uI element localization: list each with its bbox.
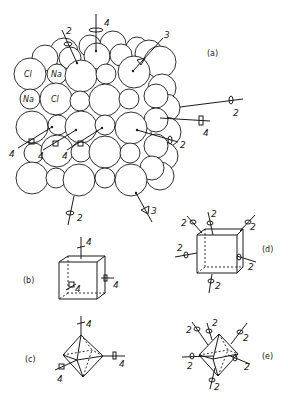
axis-2fold-bottom: 2 bbox=[66, 196, 83, 225]
svg-text:4: 4 bbox=[75, 284, 81, 294]
atom-label-cl: Cl bbox=[51, 95, 60, 104]
svg-text:4: 4 bbox=[9, 149, 15, 159]
atom-label-cl: Cl bbox=[24, 70, 33, 79]
svg-text:2: 2 bbox=[181, 218, 187, 228]
svg-text:2: 2 bbox=[233, 108, 239, 118]
panel-c-octahedron-4fold: 4 4 4 (c) bbox=[25, 316, 125, 384]
svg-text:4: 4 bbox=[104, 18, 110, 28]
panel-a-crystal: Cl Na Na Cl 4 2 3 2 bbox=[9, 14, 243, 225]
svg-text:2: 2 bbox=[215, 281, 221, 291]
svg-text:4: 4 bbox=[86, 319, 92, 329]
svg-text:2: 2 bbox=[248, 262, 254, 272]
svg-text:2: 2 bbox=[244, 362, 250, 372]
svg-text:2: 2 bbox=[212, 318, 218, 328]
panel-label-b: (b) bbox=[23, 276, 34, 285]
axis-3fold-bottom: 3 bbox=[135, 192, 157, 222]
svg-text:2: 2 bbox=[186, 325, 192, 335]
svg-text:4: 4 bbox=[38, 151, 44, 161]
svg-text:2: 2 bbox=[66, 26, 72, 36]
svg-text:3: 3 bbox=[164, 30, 170, 40]
svg-text:4: 4 bbox=[113, 280, 119, 290]
svg-text:4: 4 bbox=[203, 128, 209, 138]
svg-text:2: 2 bbox=[187, 361, 193, 371]
symmetry-figure: Cl Na Na Cl 4 2 3 2 bbox=[0, 0, 288, 402]
svg-text:2: 2 bbox=[250, 222, 256, 232]
panel-label-d: (d) bbox=[262, 245, 273, 254]
svg-text:4: 4 bbox=[119, 359, 125, 369]
svg-text:3: 3 bbox=[151, 206, 157, 216]
crystal-front-face bbox=[14, 56, 150, 196]
svg-text:2: 2 bbox=[214, 382, 220, 392]
panel-e-octahedron-2fold: 2 2 2 2 2 2 (e) bbox=[182, 318, 273, 392]
panel-label-a: (a) bbox=[207, 49, 218, 58]
svg-text:2: 2 bbox=[177, 243, 183, 253]
panel-b-cube-4fold: 4 4 4 (b) bbox=[23, 237, 119, 299]
svg-text:4: 4 bbox=[57, 374, 63, 384]
atom-label-na: Na bbox=[51, 70, 62, 79]
svg-text:2: 2 bbox=[77, 213, 83, 223]
axis-2fold-right-upper: 2 bbox=[180, 96, 243, 118]
atom-label-na: Na bbox=[23, 95, 34, 104]
svg-text:4: 4 bbox=[62, 151, 68, 161]
svg-text:2: 2 bbox=[180, 140, 186, 150]
svg-text:2: 2 bbox=[211, 209, 217, 219]
panel-label-c: (c) bbox=[25, 355, 36, 364]
panel-label-e: (e) bbox=[262, 352, 273, 361]
svg-text:2: 2 bbox=[243, 333, 249, 343]
panel-d-cube-2fold: 2 2 2 2 2 2 (d) bbox=[175, 209, 273, 293]
svg-text:4: 4 bbox=[86, 237, 92, 247]
